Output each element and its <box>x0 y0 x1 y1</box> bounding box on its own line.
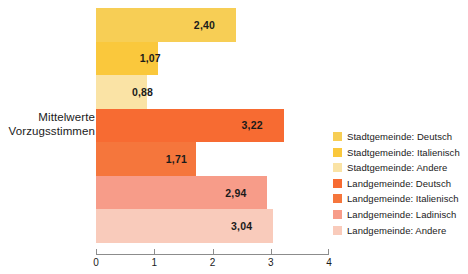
legend-item[interactable]: Stadtgemeinde: Deutsch <box>333 129 460 144</box>
x-axis-tick-label: 2 <box>210 257 216 268</box>
legend-swatch-icon <box>333 194 342 203</box>
legend-swatch-icon <box>333 132 342 141</box>
legend-label: Landgemeinde: Ladinisch <box>347 209 456 220</box>
x-axis-tick <box>154 249 155 255</box>
legend-label: Stadtgemeinde: Deutsch <box>347 131 452 142</box>
bar-value-label: 3,22 <box>242 119 263 131</box>
legend-swatch-icon <box>333 148 342 157</box>
bar-value-label: 1,71 <box>166 153 187 165</box>
x-axis-tick-label: 3 <box>268 257 274 268</box>
bar-value-label: 3,04 <box>231 220 252 232</box>
legend-label: Landgemeinde: Deutsch <box>347 178 451 189</box>
x-axis-tick <box>96 249 97 255</box>
legend-item[interactable]: Landgemeinde: Ladinisch <box>333 207 460 222</box>
legend-item[interactable]: Stadtgemeinde: Andere <box>333 160 460 175</box>
legend-label: Stadtgemeinde: Andere <box>347 162 447 173</box>
legend-swatch-icon <box>333 226 342 235</box>
legend-label: Landgemeinde: Andere <box>347 225 446 236</box>
legend-swatch-icon <box>333 179 342 188</box>
bar-row: 2,40 <box>96 8 329 42</box>
bar-row: 1,07 <box>96 42 329 76</box>
legend-label: Stadtgemeinde: Italienisch <box>347 147 460 158</box>
bar-row: 0,88 <box>96 75 329 109</box>
legend: Stadtgemeinde: DeutschStadtgemeinde: Ita… <box>333 129 460 238</box>
legend-label: Landgemeinde: Italienisch <box>347 193 459 204</box>
legend-swatch-icon <box>333 210 342 219</box>
legend-item[interactable]: Landgemeinde: Italienisch <box>333 191 460 206</box>
plot-area: 2,401,070,883,221,712,943,04 <box>96 8 329 243</box>
x-axis-tick-label: 1 <box>151 257 157 268</box>
category-axis-label-line-1: Mittelwerte <box>0 110 95 124</box>
category-axis-label-line-2: Vorzugsstimmen <box>0 124 95 138</box>
legend-swatch-icon <box>333 163 342 172</box>
x-axis: 01234 <box>96 249 329 273</box>
bar-chart: Mittelwerte Vorzugsstimmen 2,401,070,883… <box>0 0 468 274</box>
bar-value-label: 2,94 <box>225 187 246 199</box>
legend-item[interactable]: Landgemeinde: Andere <box>333 223 460 238</box>
x-axis-tick <box>271 249 272 255</box>
x-axis-tick <box>213 249 214 255</box>
bar-value-label: 0,88 <box>132 86 153 98</box>
x-axis-tick-label: 4 <box>326 257 332 268</box>
category-axis-label: Mittelwerte Vorzugsstimmen <box>0 110 95 138</box>
legend-item[interactable]: Landgemeinde: Deutsch <box>333 176 460 191</box>
bar-row: 1,71 <box>96 142 329 176</box>
bar-row: 2,94 <box>96 176 329 210</box>
x-axis-tick <box>328 249 329 255</box>
bar-row: 3,22 <box>96 109 329 143</box>
bar-value-label: 1,07 <box>140 52 161 64</box>
legend-item[interactable]: Stadtgemeinde: Italienisch <box>333 145 460 160</box>
bar-row: 3,04 <box>96 209 329 243</box>
x-axis-tick-label: 0 <box>93 257 99 268</box>
bar-value-label: 2,40 <box>194 19 215 31</box>
